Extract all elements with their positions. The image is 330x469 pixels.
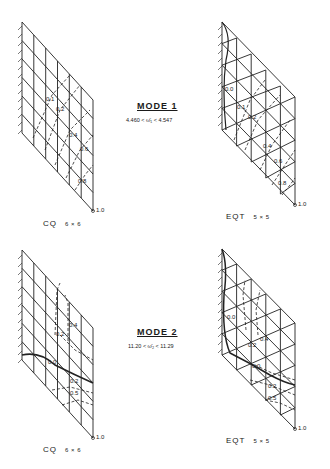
contour-label: 0.2 — [70, 378, 78, 384]
contour-label: 0.6 — [80, 146, 88, 152]
mesh-plot-eqt-mode1 — [210, 0, 330, 235]
mode-1-frequency-range: 4.460 < ω̄₁ < 4.547 — [126, 117, 172, 123]
method-label: EQT — [226, 212, 245, 221]
mode-2-title: MODE 2 — [137, 327, 178, 337]
panel-mode1-cq: 0.1 0.2 0.4 0.6 0.8 1.0 CQ6 × 6 — [0, 0, 120, 235]
contour-label: 0.2 — [248, 342, 256, 348]
contour-label: 0.8 — [78, 178, 86, 184]
mesh-size: 6 × 6 — [65, 447, 81, 453]
mesh-plot-cq-mode1 — [0, 0, 120, 235]
contour-label: 0.5 — [70, 390, 78, 396]
contour-label: 1.0 — [298, 425, 306, 431]
mesh-size: 6 × 6 — [65, 221, 81, 227]
contour-label: 0.0 — [225, 86, 233, 92]
contour-label: 0.8 — [278, 180, 286, 186]
contour-label: 1.0 — [298, 201, 306, 207]
contour-label: 0.1 — [46, 96, 54, 102]
contour-label: 0.2 — [56, 106, 64, 112]
method-label: CQ — [43, 219, 57, 228]
panel-mode1-eqt: 0.0 0.1 0.2 0.4 0.6 0.8 1.0 EQT5 × 5 — [210, 0, 330, 235]
mesh-size: 5 × 5 — [253, 438, 269, 444]
contour-label: 0.2 — [268, 383, 276, 389]
contour-label: 0.0 — [252, 363, 260, 369]
contour-label: 0.2 — [248, 114, 256, 120]
contour-label: 0.4 — [69, 322, 77, 328]
contour-label: 1.0 — [96, 434, 104, 440]
panel-caption: CQ6 × 6 — [43, 445, 81, 454]
mode-1-title: MODE 1 — [137, 101, 178, 111]
contour-label: 0.0 — [227, 314, 235, 320]
panel-mode2-cq: 0.4 0.2 0.0 0.2 0.5 1.0 CQ6 × 6 — [0, 235, 120, 469]
mesh-size: 5 × 5 — [253, 214, 269, 220]
panel-caption: EQT5 × 5 — [226, 436, 269, 445]
panel-mode2-eqt: 0.0 0.4 0.2 0.0 0.2 0.5 1.0 EQT5 × 5 — [210, 235, 330, 469]
contour-label: 0.4 — [69, 132, 77, 138]
contour-label: 0.4 — [260, 336, 268, 342]
panel-caption: CQ6 × 6 — [43, 219, 81, 228]
mode-2-frequency-range: 11.20 < ω̄₂ < 11.29 — [128, 343, 174, 349]
contour-label: 0.2 — [56, 331, 64, 337]
contour-label: 0.0 — [48, 359, 56, 365]
mesh-plot-eqt-mode2 — [210, 235, 330, 469]
method-label: CQ — [43, 445, 57, 454]
contour-label: 0.6 — [274, 158, 282, 164]
contour-label: 0.1 — [237, 104, 245, 110]
panel-caption: EQT5 × 5 — [226, 212, 269, 221]
contour-label: 0.4 — [263, 143, 271, 149]
method-label: EQT — [226, 436, 245, 445]
contour-label: 0.5 — [268, 395, 276, 401]
contour-label: 1.0 — [96, 207, 104, 213]
